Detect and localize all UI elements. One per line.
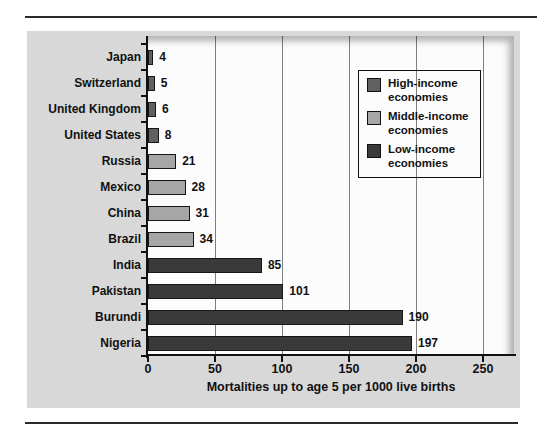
category-label: Japan <box>27 50 148 64</box>
bar <box>148 76 155 91</box>
value-label: 85 <box>268 258 281 272</box>
value-label: 8 <box>165 128 172 142</box>
bar <box>148 206 190 221</box>
x-axis-tick <box>147 356 149 362</box>
bar-row-brazil: Brazil34 <box>27 226 514 252</box>
bar <box>148 128 159 143</box>
bar-row-burundi: Burundi190 <box>27 304 514 330</box>
category-label: United States <box>27 128 148 142</box>
y-axis-tick <box>141 303 148 305</box>
x-tick-label-100: 100 <box>272 362 293 376</box>
x-tick-label-250: 250 <box>473 362 494 376</box>
y-axis-tick <box>141 121 148 123</box>
bar-row-pakistan: Pakistan101 <box>27 278 514 304</box>
legend-item-high-income: High-income economies <box>367 77 472 104</box>
y-axis-tick <box>141 225 148 227</box>
value-label: 6 <box>162 102 169 116</box>
bar <box>148 284 283 299</box>
bar <box>148 310 403 325</box>
x-axis-tick <box>415 356 417 362</box>
bar <box>148 102 156 117</box>
category-label: Switzerland <box>27 76 148 90</box>
category-label: United Kingdom <box>27 102 148 116</box>
y-axis-line <box>146 36 148 358</box>
bar-row-japan: Japan4 <box>27 44 514 70</box>
category-label: China <box>27 206 148 220</box>
y-axis-tick <box>141 277 148 279</box>
figure-panel: Japan4Switzerland5United Kingdom6United … <box>27 31 520 408</box>
bar-row-china: China31 <box>27 200 514 226</box>
x-tick-label-50: 50 <box>208 362 222 376</box>
x-axis-tick <box>214 356 216 362</box>
bar-row-india: India85 <box>27 252 514 278</box>
value-label: 5 <box>161 76 168 90</box>
category-label: Mexico <box>27 180 148 194</box>
x-axis-tick <box>348 356 350 362</box>
bar <box>148 258 262 273</box>
y-axis-tick <box>141 69 148 71</box>
y-axis-tick <box>141 147 148 149</box>
y-axis-tick <box>141 95 148 97</box>
bar <box>148 336 412 351</box>
legend-swatch-high-income <box>367 78 381 92</box>
bar <box>148 180 186 195</box>
category-label: Nigeria <box>27 336 148 350</box>
x-tick-label-150: 150 <box>339 362 360 376</box>
legend: High-income economiesMiddle-income econo… <box>358 70 481 178</box>
value-label: 34 <box>200 232 213 246</box>
legend-swatch-low-income <box>367 144 381 158</box>
x-axis-title: Mortalities up to age 5 per 1000 live bi… <box>148 380 514 394</box>
x-axis-line <box>146 354 516 356</box>
legend-label: High-income economies <box>388 77 472 104</box>
value-label: 28 <box>192 180 205 194</box>
legend-label: Low-income economies <box>388 143 472 170</box>
y-axis-tick <box>141 43 148 45</box>
top-rule <box>25 16 537 18</box>
y-axis-tick <box>141 173 148 175</box>
category-label: Brazil <box>27 232 148 246</box>
category-label: Burundi <box>27 310 148 324</box>
value-label: 190 <box>409 310 429 324</box>
y-axis-tick <box>141 251 148 253</box>
legend-swatch-middle-income <box>367 111 381 125</box>
bottom-rule <box>25 422 518 424</box>
category-label: Russia <box>27 154 148 168</box>
legend-label: Middle-income economies <box>388 110 472 137</box>
x-axis-tick <box>281 356 283 362</box>
bar <box>148 232 194 247</box>
y-axis-tick <box>141 329 148 331</box>
x-axis-tick <box>482 356 484 362</box>
value-label: 21 <box>182 154 195 168</box>
value-label: 101 <box>289 284 309 298</box>
y-axis-tick <box>141 199 148 201</box>
legend-item-low-income: Low-income economies <box>367 143 472 170</box>
value-label: 4 <box>159 50 166 64</box>
value-label: 197 <box>418 336 438 350</box>
bar-row-nigeria: Nigeria197 <box>27 330 514 356</box>
x-tick-label-200: 200 <box>406 362 427 376</box>
legend-item-middle-income: Middle-income economies <box>367 110 472 137</box>
x-tick-label-0: 0 <box>145 362 152 376</box>
value-label: 31 <box>196 206 209 220</box>
bar <box>148 50 153 65</box>
bar <box>148 154 176 169</box>
category-label: India <box>27 258 148 272</box>
category-label: Pakistan <box>27 284 148 298</box>
